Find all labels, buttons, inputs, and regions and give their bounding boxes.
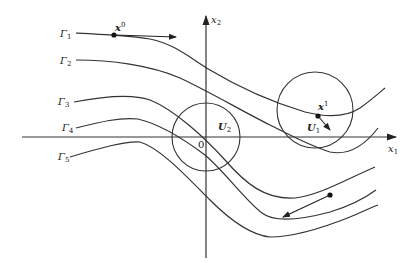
origin-label: 0 xyxy=(198,139,204,150)
gamma-1-label: Γ1 xyxy=(59,28,71,41)
x2-axis-label: x2 xyxy=(211,14,221,27)
gamma-5-label: Γ5 xyxy=(57,151,69,164)
u2-label: U2 xyxy=(218,121,231,134)
gamma-2-label: Γ2 xyxy=(59,55,71,68)
curve-gamma-2 xyxy=(76,60,378,153)
x1-axis-label: x1 xyxy=(388,143,398,156)
x1-label: x1 xyxy=(317,100,328,112)
phase-portrait-diagram: x1 x2 0 Γ1 Γ2 Γ3 Γ4 Γ5 x0 x1 U1 U2 xyxy=(0,0,412,263)
x0-label: x0 xyxy=(114,21,125,33)
curve-gamma-3 xyxy=(74,96,375,198)
gamma-4-label: Γ4 xyxy=(61,122,74,135)
gamma-3-label: Γ3 xyxy=(57,96,69,109)
curve-gamma-5 xyxy=(70,142,378,237)
curve-gamma-1 xyxy=(76,33,385,116)
u1-label: U1 xyxy=(307,122,320,135)
